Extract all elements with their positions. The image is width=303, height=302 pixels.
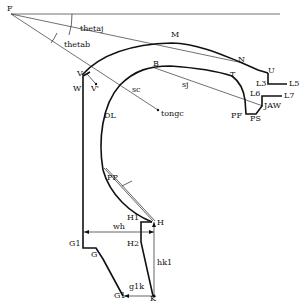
wh-arrow-left — [84, 230, 89, 234]
label-L3: L3 — [256, 79, 266, 88]
label-H1: H1 — [127, 213, 139, 222]
label-G1-upper: G1 — [69, 239, 80, 248]
thetaj-arc — [69, 14, 72, 35]
label-PS: PS — [250, 114, 261, 123]
label-W: W — [73, 84, 82, 93]
vocal-tract-diagram: F thetaj thetab M N U L3 L5 B sj T L6 L7… — [0, 0, 303, 302]
label-V-prime: V' — [90, 84, 99, 93]
label-sj: sj — [182, 80, 189, 89]
PP-tick — [122, 181, 132, 186]
back-wall-W — [83, 72, 123, 296]
hk1-arrow-top — [152, 222, 156, 227]
label-sc: sc — [132, 85, 141, 94]
label-wh: wh — [113, 222, 125, 231]
label-L5: L5 — [289, 79, 299, 88]
label-JAW: JAW — [263, 101, 282, 110]
label-G: G — [91, 250, 97, 259]
label-H: H — [157, 218, 164, 227]
label-K: K — [150, 294, 157, 302]
label-B: B — [153, 59, 159, 68]
label-PP: PP — [107, 173, 118, 182]
label-G1-lower: G1 — [114, 291, 125, 300]
wh-arrow-right — [149, 230, 154, 234]
inner-contour — [101, 66, 245, 170]
V-to-Vprime — [87, 74, 95, 83]
tongc-dot — [157, 109, 159, 111]
line-F-to-N — [11, 14, 243, 63]
label-N: N — [238, 55, 245, 64]
label-T: T — [230, 70, 236, 79]
label-PF: PF — [231, 111, 242, 120]
label-L6: L6 — [250, 89, 260, 98]
label-thetaj: thetaj — [80, 24, 104, 33]
label-DL: DL — [104, 111, 116, 120]
label-tongc: tongc — [161, 109, 184, 118]
label-V: V — [76, 69, 83, 78]
label-g1k: g1k — [129, 282, 144, 291]
line-B-sj — [152, 67, 263, 106]
thetab-arc — [51, 33, 57, 43]
label-hk1: hk1 — [157, 258, 172, 267]
label-thetab: thetab — [64, 40, 90, 49]
label-L7: L7 — [284, 91, 294, 100]
label-M: M — [171, 30, 179, 39]
label-H2: H2 — [127, 239, 139, 248]
label-U: U — [268, 66, 275, 75]
label-F: F — [7, 4, 13, 13]
